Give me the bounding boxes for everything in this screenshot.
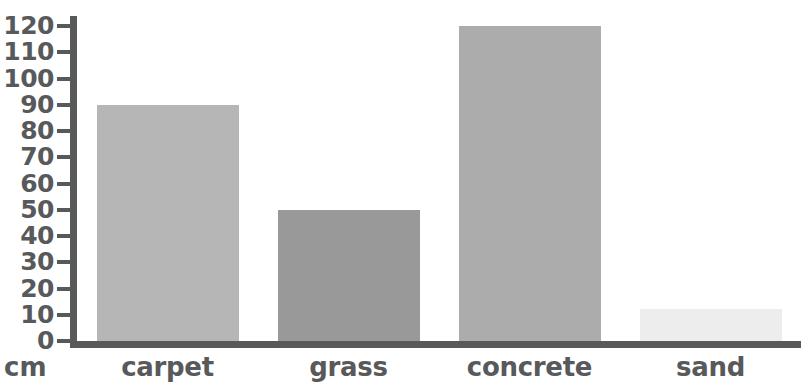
bar-sand bbox=[640, 309, 782, 341]
y-axis-tick bbox=[57, 129, 71, 133]
y-axis-tick-label: 60 bbox=[0, 171, 54, 196]
y-axis-tick bbox=[57, 234, 71, 238]
y-axis-tick bbox=[57, 50, 71, 54]
y-axis-tick-label: 10 bbox=[0, 302, 54, 327]
bar-grass bbox=[278, 210, 420, 341]
y-axis-tick-label: 100 bbox=[0, 66, 54, 91]
x-axis-label-sand: sand bbox=[620, 352, 801, 383]
bar-carpet bbox=[97, 105, 239, 341]
y-axis-tick bbox=[57, 208, 71, 212]
x-axis-label-carpet: carpet bbox=[77, 352, 258, 383]
bar-concrete bbox=[459, 26, 601, 341]
x-axis-label-concrete: concrete bbox=[439, 352, 620, 383]
bar-chart: 0102030405060708090100110120 carpetgrass… bbox=[0, 0, 801, 386]
y-axis-tick-label: 120 bbox=[0, 13, 54, 38]
y-axis-tick bbox=[57, 77, 71, 81]
y-axis-tick-label: 40 bbox=[0, 223, 54, 248]
chart-page: 0102030405060708090100110120 carpetgrass… bbox=[0, 0, 801, 386]
y-axis-tick-label: 110 bbox=[0, 39, 54, 64]
y-axis-tick-label: 90 bbox=[0, 92, 54, 117]
y-axis-tick bbox=[57, 182, 71, 186]
y-axis-tick-label: 0 bbox=[0, 328, 54, 353]
y-axis-tick-label: 70 bbox=[0, 144, 54, 169]
x-axis-label-grass: grass bbox=[258, 352, 439, 383]
y-axis-tick bbox=[57, 339, 71, 343]
y-axis-unit-label: cm bbox=[4, 352, 47, 383]
y-axis-tick bbox=[57, 155, 71, 159]
y-axis-tick-label: 20 bbox=[0, 276, 54, 301]
y-axis-tick-label: 80 bbox=[0, 118, 54, 143]
y-axis-tick bbox=[57, 103, 71, 107]
y-axis-tick bbox=[57, 313, 71, 317]
y-axis-tick bbox=[57, 260, 71, 264]
y-axis-line bbox=[70, 16, 77, 343]
y-axis-tick bbox=[57, 24, 71, 28]
y-axis-tick-label: 30 bbox=[0, 249, 54, 274]
y-axis-tick-label: 50 bbox=[0, 197, 54, 222]
y-axis-tick bbox=[57, 287, 71, 291]
x-axis-line bbox=[70, 341, 801, 348]
